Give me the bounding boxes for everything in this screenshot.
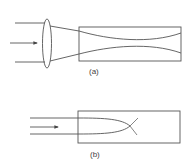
panel-a-label: (a) — [89, 67, 99, 76]
panel-b — [30, 111, 180, 143]
diverging-ray-down — [130, 126, 137, 135]
converging-ray-top — [50, 26, 79, 31]
panel-b-label: (b) — [90, 150, 100, 159]
diagram-canvas — [0, 0, 190, 161]
self-focus-ray-top — [79, 118, 130, 126]
beam-envelope-bottom — [79, 46, 181, 54]
diverging-ray-up — [130, 118, 138, 126]
self-focus-ray-bottom — [79, 126, 130, 134]
beam-envelope-top — [79, 31, 181, 40]
waveguide-box-a — [79, 27, 181, 61]
panel-a — [10, 19, 181, 68]
converging-ray-bottom — [50, 54, 79, 61]
